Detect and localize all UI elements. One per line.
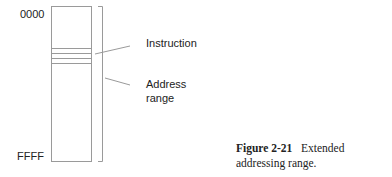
instruction-leader <box>95 46 130 54</box>
end-address-label: FFFF <box>17 150 44 163</box>
start-address-label: 0000 <box>20 8 44 21</box>
address-range-callout-line2: range <box>146 92 174 105</box>
figure-caption: Figure 2-21 Extended addressing range. <box>236 141 392 171</box>
instruction-callout: Instruction <box>146 37 197 50</box>
memory-block <box>52 7 92 162</box>
figure-number: Figure 2-21 <box>236 142 292 154</box>
address-range-callout-line1: Address <box>146 78 186 91</box>
address-range-leader <box>105 78 130 85</box>
address-range-bracket <box>98 7 103 162</box>
